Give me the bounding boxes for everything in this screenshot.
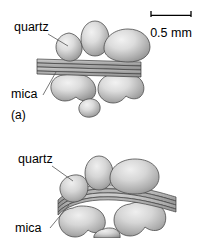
- quartz-label: quartz: [14, 20, 49, 34]
- mica-label: mica: [15, 221, 41, 235]
- quartz-grain: [98, 73, 144, 103]
- quartz-grain: [85, 156, 113, 190]
- mica-label: mica: [11, 87, 37, 101]
- scale-bar: 0.5 mm: [150, 11, 192, 40]
- scale-bar-label: 0.5 mm: [150, 26, 192, 40]
- panel-caption-a: (a): [11, 108, 26, 122]
- quartz-label: quartz: [18, 152, 53, 166]
- quartz-grain: [110, 159, 159, 194]
- quartz-grain: [79, 99, 100, 117]
- quartz-grain: [51, 74, 96, 101]
- quartz-grain: [60, 175, 88, 202]
- figure-root: 0.5 mm quartz mica (a): [0, 0, 201, 238]
